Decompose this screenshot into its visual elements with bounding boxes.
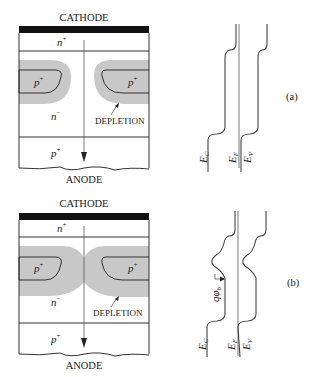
ev-label-b: EV	[240, 338, 254, 351]
n-plus-label-b: n+	[57, 221, 67, 234]
arrow-head-a	[81, 152, 87, 162]
p-plus-bottom-label-a: p+	[50, 146, 61, 159]
figure-canvas: CATHODE n+ p+ p+ n− p+ DEPLETION ANODE E…	[0, 0, 321, 377]
wavy-edge-a	[19, 167, 149, 170]
ec-label-a: EC	[197, 151, 211, 164]
depletion-region-left-a	[19, 60, 71, 104]
depletion-label-a: DEPLETION	[95, 116, 145, 126]
ev-label-a: EV	[241, 151, 255, 164]
anode-label-b: ANODE	[66, 360, 103, 371]
panel-label-a: (a)	[286, 91, 298, 103]
n-minus-label-b: n−	[51, 295, 61, 308]
cathode-label-b: CATHODE	[60, 198, 109, 209]
cathode-label-a: CATHODE	[60, 12, 109, 23]
barrier-height-label-b: qφb	[209, 286, 223, 302]
device-cross-section-a: CATHODE n+ p+ p+ n− p+ DEPLETION ANODE	[19, 12, 149, 185]
ef-label-b: EF	[225, 338, 239, 351]
arrow-head-b	[81, 338, 87, 348]
panel-label-b: (b)	[287, 277, 300, 289]
device-cross-section-b: CATHODE n+ p+ p+ n− p+ DEPLETION ANODE	[19, 198, 149, 371]
valence-band-b	[238, 211, 266, 357]
ec-label-b: EC	[196, 338, 210, 351]
valence-band-a	[241, 24, 267, 172]
cathode-contact-b	[19, 213, 149, 220]
ef-label-a: EF	[226, 151, 240, 164]
wavy-edge-b	[19, 353, 149, 356]
anode-label-a: ANODE	[66, 174, 103, 185]
depletion-region-right-a	[94, 60, 149, 104]
n-plus-label-a: n+	[57, 35, 67, 48]
cathode-contact-a	[19, 26, 149, 33]
depletion-label-b: DEPLETION	[93, 308, 143, 318]
conduction-band-a	[208, 24, 236, 172]
conduction-band-b	[207, 211, 235, 357]
band-diagram-a: EC EF EV (a)	[197, 24, 298, 172]
band-diagram-b: qφb EC EF EV (b)	[196, 211, 300, 357]
p-plus-bottom-label-b: p+	[50, 332, 61, 345]
n-minus-label-a: n−	[51, 109, 61, 122]
